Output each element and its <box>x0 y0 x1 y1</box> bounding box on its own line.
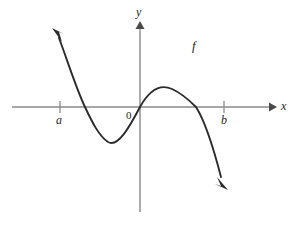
graph-canvas <box>0 0 294 225</box>
x-tick-label-b: b <box>221 114 227 126</box>
y-axis-label: y <box>136 6 141 18</box>
function-label-f: f <box>192 39 196 52</box>
x-axis <box>12 103 277 112</box>
origin-label: 0 <box>126 110 132 121</box>
y-axis-arrowhead <box>136 21 145 29</box>
x-axis-arrowhead <box>269 103 277 112</box>
x-tick-label-a: a <box>56 114 62 126</box>
y-axis <box>136 21 145 212</box>
curve-f-start-arrowhead <box>52 28 64 42</box>
curve-f-end-arrowhead <box>215 177 228 190</box>
x-axis-label: x <box>281 100 286 112</box>
function-graph-figure: y x f a b 0 <box>0 0 294 225</box>
